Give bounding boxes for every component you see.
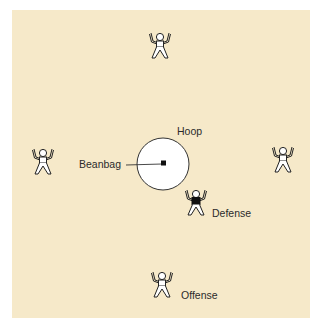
player-top bbox=[150, 33, 171, 58]
beanbag bbox=[161, 161, 166, 166]
player-right bbox=[273, 147, 294, 172]
hoop-label: Hoop bbox=[177, 125, 202, 137]
player-left bbox=[33, 149, 54, 174]
offense-label: Offense bbox=[181, 289, 218, 301]
beanbag-label: Beanbag bbox=[79, 158, 121, 170]
player-defense bbox=[186, 190, 207, 215]
defense-label: Defense bbox=[212, 207, 251, 219]
game-diagram bbox=[0, 0, 322, 329]
player-offense bbox=[152, 272, 173, 297]
